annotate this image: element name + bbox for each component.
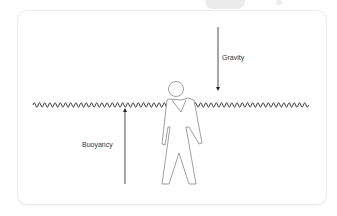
gravity-label: Gravity	[222, 54, 244, 61]
figure-head	[169, 82, 184, 97]
diagram-canvas	[0, 0, 337, 216]
figure-body	[162, 98, 202, 184]
buoyancy-label: Buoyancy	[82, 141, 113, 148]
human-figure	[162, 82, 202, 185]
